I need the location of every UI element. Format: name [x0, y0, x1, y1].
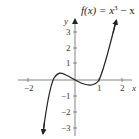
function-curve	[43, 21, 116, 133]
y-axis-label: y	[63, 16, 68, 26]
x-axis-label: x	[131, 83, 136, 93]
y-tick-minus1: −1	[61, 91, 71, 101]
y-tick-1: 1	[66, 58, 71, 68]
x-tick-minus2: −2	[24, 83, 34, 93]
y-tick-minus3: −3	[61, 123, 71, 133]
y-tick-2: 2	[66, 43, 71, 53]
y-tick-3: 3	[66, 27, 71, 37]
curve-arrow-up-icon	[113, 20, 117, 33]
chart: −2 1 2 x y 3 2 1 −1 −2 −3 f(x) = x3 − x	[0, 0, 139, 139]
x-tick-2: 2	[120, 83, 125, 93]
curve-arrow-down-icon	[43, 122, 45, 134]
y-tick-minus2: −2	[61, 107, 71, 117]
function-label: f(x) = x3 − x	[81, 4, 135, 17]
x-tick-1: 1	[97, 83, 102, 93]
